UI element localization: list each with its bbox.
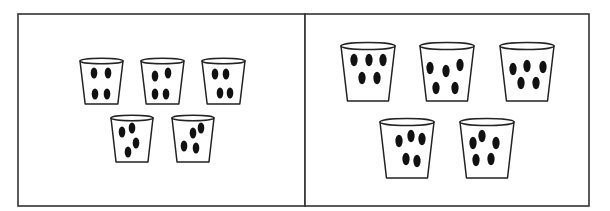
cup-body [172, 118, 214, 162]
cup-body [380, 122, 434, 178]
bead [91, 67, 98, 78]
bead [418, 133, 425, 145]
bead [509, 63, 516, 75]
cup-rim [420, 42, 474, 49]
right-panel [305, 14, 589, 206]
bead [492, 137, 499, 149]
bead [198, 122, 205, 133]
bead [133, 137, 140, 148]
bead [193, 142, 200, 153]
cup-body [80, 61, 123, 104]
bead [350, 54, 357, 66]
bead [379, 54, 386, 66]
bead [181, 140, 188, 151]
bead [358, 72, 365, 84]
bead [165, 67, 172, 78]
cup [341, 42, 395, 101]
bead [517, 77, 524, 89]
bead [92, 88, 99, 99]
bead [125, 146, 132, 157]
bead [395, 135, 402, 147]
cup-rim [111, 115, 153, 120]
cup [460, 118, 514, 178]
bead [105, 67, 112, 78]
cup [80, 58, 123, 104]
bead [456, 59, 463, 71]
cup [141, 58, 184, 104]
cup-rim [172, 115, 214, 120]
bead [442, 65, 449, 77]
bead [217, 87, 224, 98]
bead [413, 155, 420, 167]
cup-rim [341, 42, 395, 49]
bead [472, 154, 479, 166]
bead [407, 130, 414, 142]
bead [104, 88, 111, 99]
cup [172, 115, 214, 162]
panels-layer [18, 14, 589, 206]
bead [152, 70, 159, 81]
cup-rim [80, 58, 123, 64]
cup [111, 115, 153, 162]
cups-and-beads-diagram [0, 0, 610, 211]
cup-body [202, 61, 245, 104]
bead [119, 126, 126, 137]
bead [163, 88, 170, 99]
bead [212, 68, 219, 79]
cup-rim [380, 118, 434, 125]
bead [402, 153, 409, 165]
cup-rim [460, 118, 514, 125]
bead [432, 82, 439, 94]
cup-rim [141, 58, 184, 64]
panel-frame [18, 14, 305, 206]
cup [420, 42, 474, 101]
bead [532, 77, 539, 89]
cup [500, 42, 554, 101]
bead [129, 122, 136, 133]
bead [223, 68, 230, 79]
bead [539, 61, 546, 73]
cup-rim [500, 42, 554, 49]
bead [190, 127, 197, 138]
cup-body [141, 61, 184, 104]
bead [523, 60, 530, 72]
bead [227, 87, 234, 98]
bead [373, 72, 380, 84]
bead [487, 153, 494, 165]
bead [152, 88, 159, 99]
bead [426, 62, 433, 74]
bead [469, 137, 476, 149]
cup [380, 118, 434, 178]
bead [365, 54, 372, 66]
bead [478, 130, 485, 142]
cup-rim [202, 58, 245, 64]
bead [451, 82, 458, 94]
cup-body [460, 122, 514, 178]
cup-body [500, 46, 554, 101]
cup [202, 58, 245, 104]
left-panel [18, 14, 305, 206]
